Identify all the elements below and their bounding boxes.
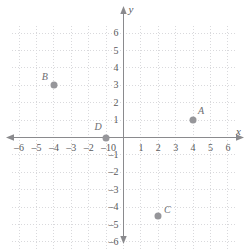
y-tick-label: –4: [109, 202, 119, 212]
x-tick-label: 2: [156, 143, 161, 153]
axes-group: [6, 6, 244, 244]
y-tick-label: –5: [109, 220, 119, 230]
x-tick-label: –5: [32, 143, 42, 153]
x-tick-label: 6: [225, 143, 230, 153]
y-tick-label: 6: [114, 28, 119, 38]
y-axis-label: y: [129, 4, 134, 15]
y-tick-label: –2: [109, 167, 119, 177]
plot-point-label-c: C: [164, 205, 171, 215]
x-axis-label: x: [236, 126, 241, 137]
y-tick-label: 2: [114, 98, 119, 108]
y-tick-label: –1: [109, 150, 119, 160]
x-tick-label: –4: [49, 143, 59, 153]
x-tick-label: 4: [191, 143, 196, 153]
plot-point-d: [103, 134, 110, 141]
y-tick-label: 3: [114, 80, 119, 90]
y-tick-label: 5: [114, 46, 119, 56]
plot-point-label-a: A: [198, 106, 204, 116]
x-tick-label: 5: [208, 143, 213, 153]
coordinate-grid-svg: [0, 0, 250, 250]
plot-point-label-d: D: [94, 122, 101, 132]
plot-point-label-b: B: [42, 72, 48, 82]
coordinate-plane-figure: –6–5–4–3–2–11234560 654321–1–2–3–4–5–6 x…: [0, 0, 250, 250]
x-tick-label: 3: [173, 143, 178, 153]
plot-point-c: [155, 212, 162, 219]
x-tick-label: –6: [14, 143, 24, 153]
plot-point-b: [50, 82, 57, 89]
y-tick-label: 4: [114, 63, 119, 73]
x-tick-label: –2: [84, 143, 94, 153]
y-tick-label: 1: [114, 115, 119, 125]
x-tick-label: –3: [66, 143, 76, 153]
y-tick-label: –3: [109, 185, 119, 195]
y-tick-label: –6: [109, 237, 119, 247]
plot-point-a: [190, 117, 197, 124]
x-tick-label: 1: [138, 143, 143, 153]
